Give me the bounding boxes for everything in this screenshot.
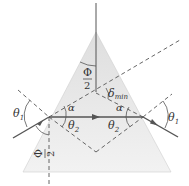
label-theta1-right: θ1 (168, 111, 179, 126)
label-phi-top-denominator: 2 (84, 80, 90, 91)
label-phi-bottom-numerator: Φ (32, 149, 45, 158)
emergent-arrow-icon (150, 119, 158, 126)
normal-left-upper (18, 90, 49, 117)
label-alpha-left: α (68, 102, 75, 113)
label-alpha-right: α (116, 102, 123, 113)
label-phi-bottom-denominator: 2 (45, 151, 56, 157)
label-phi-top-numerator: Φ (83, 66, 92, 79)
theta1-left-arc (24, 100, 30, 127)
label-theta1-left: θ1 (13, 107, 24, 122)
prism-diagram: θ1 α θ2 α θ2 θ1 Φ 2 δmin Φ 2 (0, 0, 189, 186)
